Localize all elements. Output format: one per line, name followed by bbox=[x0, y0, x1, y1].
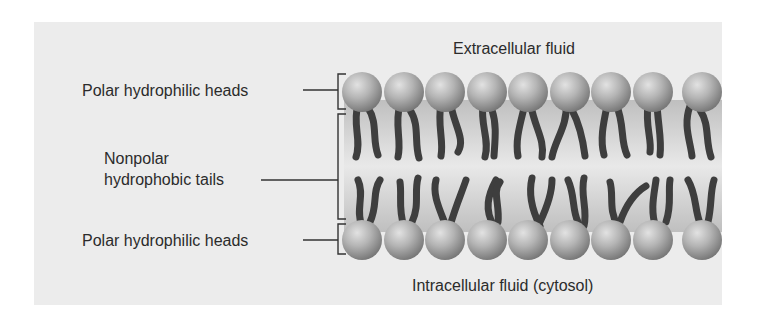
extracellular-fluid-label: Extracellular fluid bbox=[453, 39, 575, 58]
bottom-heads-label: Polar hydrophilic heads bbox=[82, 231, 248, 250]
bracket-tails bbox=[261, 114, 346, 219]
tails-label-line1: Nonpolar bbox=[104, 149, 169, 168]
bracket-top-heads bbox=[303, 74, 346, 109]
bottom-heads bbox=[342, 220, 722, 260]
tails-label-line2: hydrophobic tails bbox=[104, 170, 224, 189]
top-heads bbox=[342, 72, 722, 112]
top-heads-label: Polar hydrophilic heads bbox=[82, 81, 248, 100]
intracellular-fluid-label: Intracellular fluid (cytosol) bbox=[412, 276, 593, 295]
bracket-bottom-heads bbox=[303, 224, 346, 254]
